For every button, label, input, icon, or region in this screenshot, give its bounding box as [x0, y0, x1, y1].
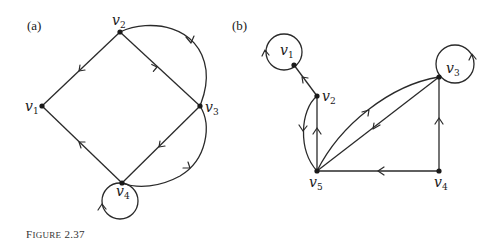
vertex-b-v3: [436, 74, 441, 79]
panel-a: (a) v1: [25, 12, 219, 219]
panel-b-label: (b): [232, 18, 247, 33]
vertex-a-v4-label: v4: [116, 183, 130, 201]
figure-canvas: (a) v1: [0, 0, 501, 248]
vertex-a-v2: [117, 29, 122, 34]
vertex-b-v2-label: v2: [322, 88, 336, 106]
vertex-b-v3-label: v3: [446, 60, 460, 78]
edge-b-v2-v1: [294, 65, 317, 96]
edge-a-v2-v1: [42, 32, 120, 106]
panel-a-label: (a): [27, 18, 41, 33]
edge-a-v2-v3: [120, 32, 200, 106]
arrow-icon: [262, 50, 476, 175]
vertex-a-v1-label: v1: [25, 98, 39, 116]
vertex-a-v2-label: v2: [112, 12, 126, 30]
edge-a-v4-v1: [42, 106, 122, 183]
edge-b-v3-v5: [317, 77, 439, 171]
edge-b-arc-v2-v5: [303, 96, 317, 171]
figure-caption: FIGURE2.37: [26, 228, 85, 240]
vertex-b-v4-label: v4: [434, 174, 448, 192]
vertex-b-v4: [436, 168, 441, 173]
vertex-b-v2: [314, 93, 319, 98]
vertex-b-v5: [314, 168, 319, 173]
vertex-b-v5-label: v5: [309, 174, 323, 192]
arrow-icon: [79, 36, 194, 210]
vertex-b-v1-label: v1: [280, 42, 294, 60]
edge-a-v3-v4: [122, 106, 200, 183]
vertex-a-v1: [39, 103, 44, 108]
vertex-a-v3-label: v3: [205, 99, 219, 117]
vertex-a-v3: [197, 103, 202, 108]
vertex-b-v1: [291, 62, 296, 67]
panel-b: (b): [232, 18, 476, 192]
